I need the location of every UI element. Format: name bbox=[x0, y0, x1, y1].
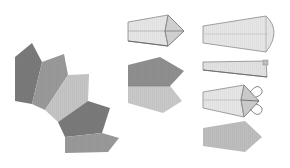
step-tapered-strip-folded bbox=[203, 60, 268, 77]
diagram-canvas bbox=[0, 0, 290, 168]
step-two-tone-pentagon bbox=[128, 57, 184, 113]
step-point-fold-arrows bbox=[203, 85, 262, 117]
step-folded-point-piece bbox=[128, 15, 184, 46]
fan-assembly bbox=[15, 43, 119, 153]
step-finished-pentagon bbox=[203, 121, 262, 152]
step-tapered-strip-rounded bbox=[203, 16, 274, 52]
